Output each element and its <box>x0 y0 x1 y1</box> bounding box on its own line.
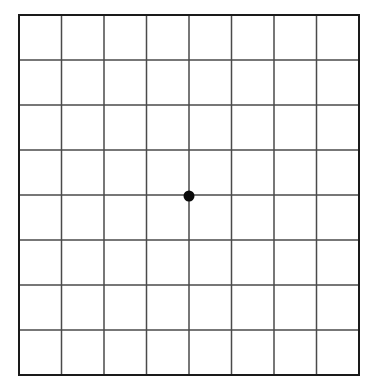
center-fixation-dot <box>184 191 195 202</box>
fixation-dot-circle <box>184 191 195 202</box>
amsler-grid-svg: Amsler grid: an eight by eight square gr… <box>0 0 383 391</box>
amsler-grid-chart: Amsler grid: an eight by eight square gr… <box>0 0 383 391</box>
